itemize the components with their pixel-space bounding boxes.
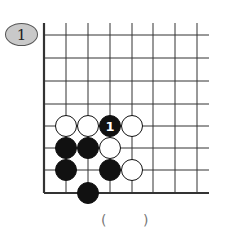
black-stone <box>56 160 77 181</box>
white-stone <box>100 138 121 159</box>
black-stone <box>100 160 121 181</box>
move-number-label: 1 <box>105 119 114 134</box>
black-stone <box>78 183 99 204</box>
black-stone <box>56 138 77 159</box>
answer-close-paren: ) <box>143 212 148 228</box>
go-board-diagram: 1 <box>0 0 227 230</box>
white-stone <box>122 116 143 137</box>
answer-blank[interactable] <box>112 212 140 228</box>
answer-open-paren: ( <box>101 212 106 228</box>
white-stone <box>56 116 77 137</box>
white-stone <box>122 160 143 181</box>
white-stone <box>78 116 99 137</box>
black-stone <box>78 138 99 159</box>
